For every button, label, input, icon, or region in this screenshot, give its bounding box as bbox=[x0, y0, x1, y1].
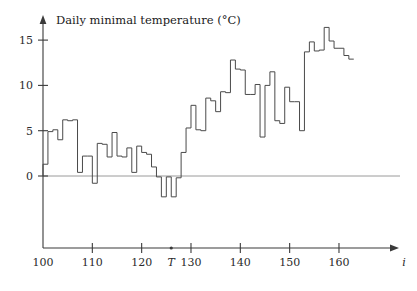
chart-title: Daily minimal temperature (°C) bbox=[56, 13, 241, 27]
t-marker-dot bbox=[170, 246, 173, 249]
y-tick-label: 5 bbox=[26, 125, 33, 138]
y-tick-label: 0 bbox=[26, 170, 33, 183]
x-tick-label: 120 bbox=[131, 256, 152, 269]
y-tick-label: 15 bbox=[19, 34, 33, 47]
chart-background bbox=[0, 0, 417, 291]
x-tick-label: 130 bbox=[180, 256, 201, 269]
x-axis-name-label: i bbox=[402, 256, 406, 269]
x-tick-label: 160 bbox=[328, 256, 349, 269]
chart-canvas: 051015 100110120130140150160 T Daily min… bbox=[0, 0, 417, 291]
x-tick-label: 150 bbox=[279, 256, 300, 269]
x-tick-label: 110 bbox=[82, 256, 103, 269]
y-tick-label: 10 bbox=[19, 79, 33, 92]
temperature-step-chart: 051015 100110120130140150160 T Daily min… bbox=[0, 0, 417, 291]
x-tick-label: 100 bbox=[33, 256, 54, 269]
x-tick-label: 140 bbox=[230, 256, 251, 269]
